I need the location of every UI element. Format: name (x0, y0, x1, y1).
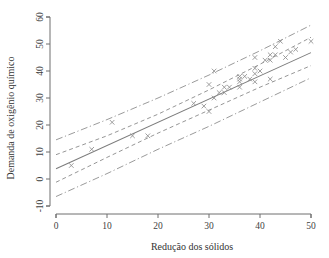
x-tick-label: 20 (153, 221, 163, 231)
data-point-marker (89, 147, 94, 152)
data-point-marker (207, 82, 212, 87)
plot-axes (46, 17, 311, 218)
x-tick-label: 30 (204, 221, 214, 231)
y-tick-label: 0 (35, 176, 45, 181)
data-point-marker (293, 47, 298, 52)
data-point-marker (288, 50, 293, 55)
data-point-marker (309, 39, 314, 44)
data-point-marker (69, 163, 74, 168)
x-axis-title: Redução dos sólidos (151, 241, 233, 252)
data-point-marker (253, 80, 258, 85)
data-point-marker (268, 77, 273, 82)
y-axis-title: Demanda de oxigênio químico (5, 56, 16, 179)
prediction-band-upper (56, 25, 311, 140)
y-tick-label: 40 (35, 66, 45, 76)
data-point-marker (268, 53, 273, 58)
chart-figure: 01020304050 -100102030405060 Redução dos… (0, 0, 329, 258)
x-axis-spine (56, 214, 311, 218)
data-point-marker (227, 85, 232, 90)
data-point-marker (222, 85, 227, 90)
y-tick-label: 20 (35, 120, 45, 130)
data-point-marker (253, 55, 258, 60)
y-axis-tick-labels: -100102030405060 (35, 12, 45, 212)
data-point-marker (110, 120, 115, 125)
data-point-marker (146, 134, 151, 139)
x-axis-tick-labels: 01020304050 (54, 221, 316, 231)
data-point-marker (283, 55, 288, 60)
y-tick-label: 10 (35, 147, 45, 157)
data-point-marker (242, 74, 247, 79)
data-point-marker (202, 104, 207, 109)
data-point-marker (191, 101, 196, 106)
confidence-band-upper (56, 37, 311, 154)
data-point-marker (258, 69, 263, 74)
confidence-band (56, 37, 311, 182)
prediction-band-lower (56, 78, 311, 197)
data-point-marker (273, 44, 278, 49)
data-points (69, 39, 313, 168)
data-point-marker (253, 71, 258, 76)
y-tick-label: 50 (35, 39, 45, 49)
data-point-marker (237, 80, 242, 85)
data-point-marker (212, 69, 217, 74)
y-tick-label: -10 (35, 199, 45, 212)
y-axis-spine (46, 17, 50, 206)
y-tick-label: 60 (35, 12, 45, 22)
confidence-band-lower (56, 66, 311, 183)
x-tick-label: 10 (102, 221, 112, 231)
y-tick-label: 30 (35, 93, 45, 103)
x-tick-label: 40 (255, 221, 265, 231)
x-tick-label: 0 (54, 221, 59, 231)
scatter-plot-svg: 01020304050 -100102030405060 Redução dos… (0, 0, 329, 258)
data-point-marker (237, 74, 242, 79)
x-tick-label: 50 (306, 221, 316, 231)
